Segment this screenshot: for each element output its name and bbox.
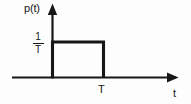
rectangular-pulse-figure: p(t) 1 T T t — [0, 0, 191, 104]
y-axis-arrow-icon — [48, 4, 57, 16]
fraction-numerator: 1 — [30, 31, 46, 42]
plot-canvas — [0, 0, 191, 104]
x-axis-arrow-icon — [167, 73, 179, 83]
y-axis-label: p(t) — [24, 3, 40, 14]
fraction-denominator: T — [30, 44, 46, 55]
pulse-waveform — [53, 42, 104, 78]
x-tick-label-T: T — [98, 84, 105, 95]
y-tick-label-one-over-T: 1 T — [30, 31, 46, 55]
x-axis-label: t — [173, 88, 176, 99]
